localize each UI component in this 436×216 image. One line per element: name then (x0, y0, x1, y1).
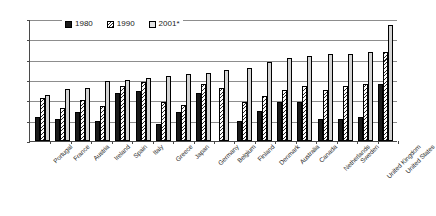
legend-swatch-1980-icon (65, 21, 72, 28)
bar-group (376, 20, 396, 141)
chart-legend: 198019902001* (62, 19, 183, 29)
bar-2001-united-states (388, 25, 393, 141)
legend-label: 2001* (159, 20, 180, 28)
bar-group (356, 20, 376, 141)
category-label-spain: Spain (132, 143, 148, 159)
bar-2001-belgium (224, 70, 229, 141)
legend-label: 1980 (75, 20, 93, 28)
bar-2001-united-kingdom (368, 52, 373, 141)
bar-group (93, 20, 113, 141)
bar-2001-canada (307, 56, 312, 141)
legend-label: 1990 (117, 20, 135, 28)
bar-group (214, 20, 234, 141)
bar-2001-ireland (105, 81, 110, 141)
bar-2001-japan (186, 74, 191, 142)
x-tick-mark (398, 141, 399, 144)
bar-group (174, 20, 194, 141)
category-label-australia: Australia (298, 143, 320, 165)
legend-item-1980[interactable]: 1980 (65, 20, 93, 28)
bar-group (295, 20, 315, 141)
category-label-canada: Canada (318, 143, 339, 164)
legend-item-2001[interactable]: 2001* (149, 20, 180, 28)
bar-group (153, 20, 173, 141)
category-label-greece: Greece (174, 143, 194, 163)
bar-group (315, 20, 335, 141)
category-label-germany: Germany (217, 143, 240, 166)
bar-group (52, 20, 72, 141)
legend-item-1990[interactable]: 1990 (107, 20, 135, 28)
legend-swatch-2001-icon (149, 21, 156, 28)
legend-swatch-1990-icon (107, 21, 114, 28)
bar-group (234, 20, 254, 141)
category-label-france: France (72, 143, 91, 162)
category-label-austria: Austria (92, 143, 111, 162)
bar-group (32, 20, 52, 141)
bar-group (335, 20, 355, 141)
bar-2001-finland (247, 68, 252, 141)
category-label-ireland: Ireland (112, 143, 131, 162)
bar-2001-sweden (348, 54, 353, 141)
bar-group (275, 20, 295, 141)
bar-2001-australia (287, 58, 292, 141)
bar-2001-portugal (45, 95, 50, 141)
bar-group (113, 20, 133, 141)
bar-group (194, 20, 214, 141)
bar-2001-italy (146, 78, 151, 141)
plot-area (29, 20, 397, 142)
bar-2001-spain (125, 80, 130, 141)
bar-2001-greece (166, 76, 171, 141)
category-label-finland: Finland (256, 143, 276, 163)
bar-2001-denmark (267, 62, 272, 141)
bar-group (72, 20, 92, 141)
category-label-portugal: Portugal (52, 143, 74, 165)
category-label-italy: Italy (151, 143, 164, 156)
bar-group (254, 20, 274, 141)
bar-2001-netherlands (328, 54, 333, 141)
bar-2001-austria (85, 88, 90, 141)
x-axis-category-labels: PortugalFranceAustriaIrelandSpainItalyGr… (29, 143, 397, 216)
bar-groups (30, 20, 397, 141)
bar-2001-germany (206, 73, 211, 141)
category-label-denmark: Denmark (278, 143, 301, 166)
bar-group (133, 20, 153, 141)
category-label-japan: Japan (193, 143, 210, 160)
bar-2001-france (65, 89, 70, 141)
